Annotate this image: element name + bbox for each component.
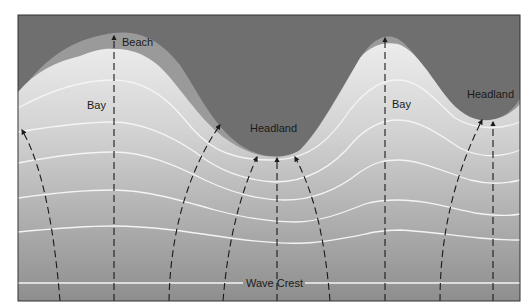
label-headland-center: Headland (250, 122, 297, 134)
label-wave-crest: Wave Crest (246, 277, 303, 289)
label-beach: Beach (122, 36, 153, 48)
label-bay-left: Bay (87, 99, 106, 111)
wave-refraction-diagram: Beach Bay Headland Bay Headland Wave Cre… (0, 0, 531, 307)
label-headland-right: Headland (467, 88, 514, 100)
label-bay-right: Bay (392, 98, 411, 110)
